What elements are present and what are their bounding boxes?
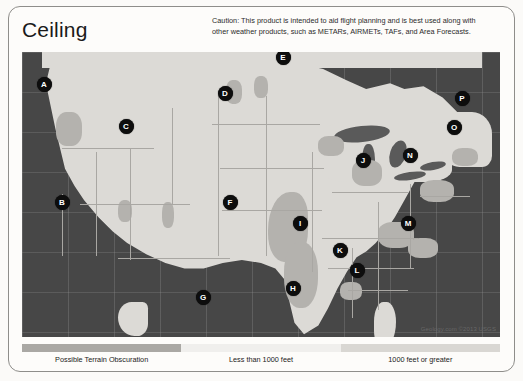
screenshot-root: Ceiling Caution: This product is intende…: [0, 0, 523, 381]
map-state-border: [328, 268, 414, 269]
map-state-border: [130, 148, 131, 260]
map-state-border: [322, 238, 418, 239]
map-marker-m[interactable]: M: [401, 216, 416, 231]
caution-text: Caution: This product is intended to aid…: [212, 16, 482, 37]
map-marker-g[interactable]: G: [196, 290, 211, 305]
legend-swatch-0: [22, 344, 181, 352]
map-terrain-patch: [408, 238, 438, 258]
map-state-border: [378, 202, 379, 310]
map-terrain-patch: [318, 136, 344, 156]
map-state-border: [172, 108, 173, 204]
map-state-border: [218, 96, 219, 256]
legend-swatch-1: [181, 344, 340, 352]
map-marker-n[interactable]: N: [403, 148, 418, 163]
map-marker-k[interactable]: K: [333, 243, 348, 258]
legend-swatch-2: [341, 344, 500, 352]
legend-label-2: 1000 feet or greater: [341, 355, 500, 364]
map-state-border: [352, 248, 353, 318]
legend-label-1: Less than 1000 feet: [181, 355, 340, 364]
map-state-border: [312, 152, 313, 272]
map-land-canada-north: [42, 52, 482, 68]
map-marker-i[interactable]: I: [293, 216, 308, 231]
map-marker-o[interactable]: O: [447, 120, 462, 135]
legend-label-0: Possible Terrain Obscuration: [22, 355, 181, 364]
map-marker-b[interactable]: B: [55, 195, 70, 210]
map-credit: Geology.com ©2013 USGS: [421, 326, 496, 332]
map-marker-l[interactable]: L: [350, 263, 365, 278]
map-state-border: [420, 196, 470, 197]
page-title: Ceiling: [22, 18, 88, 42]
map-state-border: [222, 210, 322, 211]
map-marker-p[interactable]: P: [455, 91, 470, 106]
map-marker-a[interactable]: A: [37, 77, 52, 92]
map-terrain-patch: [162, 202, 174, 228]
map-state-border: [118, 258, 230, 259]
map-legend: Possible Terrain ObscurationLess than 10…: [22, 344, 500, 368]
map-state-border: [332, 192, 408, 193]
map-marker-j[interactable]: J: [356, 153, 371, 168]
map-terrain-patch: [340, 282, 362, 300]
map-land-baja-gulf: [118, 302, 148, 336]
map-marker-e[interactable]: E: [276, 52, 291, 65]
map-state-border: [220, 168, 324, 169]
ceiling-map[interactable]: ABCDEFGHIJKLMNOPGeology.com ©2013 USGS: [22, 52, 500, 337]
map-state-border: [96, 152, 97, 256]
map-marker-d[interactable]: D: [218, 86, 233, 101]
map-marker-c[interactable]: C: [119, 119, 134, 134]
map-state-border: [62, 148, 154, 149]
map-terrain-patch: [420, 180, 454, 202]
map-terrain-patch: [452, 148, 478, 166]
map-marker-h[interactable]: H: [286, 281, 301, 296]
map-marker-f[interactable]: F: [223, 195, 238, 210]
map-state-border: [266, 96, 267, 256]
map-terrain-patch: [56, 112, 82, 146]
map-terrain-patch: [254, 76, 268, 98]
